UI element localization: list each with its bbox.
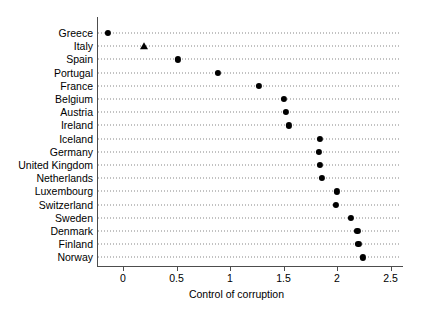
category-guide-line	[98, 164, 401, 165]
data-point-marker	[348, 215, 354, 221]
category-guide-line	[98, 178, 401, 179]
data-point-marker	[317, 162, 323, 168]
x-axis-tick-label: 1	[227, 272, 233, 285]
x-axis-tick-mark	[123, 267, 124, 271]
data-point-marker	[334, 188, 340, 194]
x-axis-tick-label: 2	[334, 272, 340, 285]
y-axis-tick-label: France	[60, 80, 93, 91]
category-row: Denmark	[97, 224, 403, 237]
data-point-marker	[333, 202, 339, 208]
data-point-marker	[286, 122, 292, 128]
category-guide-line	[98, 59, 401, 60]
x-axis-tick-label: 0	[120, 272, 126, 285]
category-row: Luxembourg	[97, 185, 403, 198]
y-axis-tick-label: Denmark	[50, 225, 93, 236]
x-axis-title: Control of corruption	[0, 288, 421, 300]
category-row: France	[97, 79, 403, 92]
data-point-marker	[354, 228, 360, 234]
y-axis-tick-label: Sweden	[55, 212, 93, 223]
y-axis-tick-label: Germany	[50, 146, 93, 157]
category-guide-line	[98, 217, 401, 218]
y-axis-tick-label: Greece	[59, 27, 93, 38]
category-row: Switzerland	[97, 198, 403, 211]
category-guide-line	[98, 85, 401, 86]
y-axis-tick-label: Norway	[57, 252, 93, 263]
y-axis-tick-label: Finland	[59, 239, 93, 250]
category-guide-line	[98, 151, 401, 152]
data-point-marker	[355, 241, 361, 247]
data-point-marker	[174, 56, 180, 62]
x-axis-spine	[97, 266, 403, 267]
category-guide-line	[98, 98, 401, 99]
category-row: Italy	[97, 40, 403, 53]
data-point-marker	[316, 149, 322, 155]
category-guide-line	[98, 257, 401, 258]
dot-plot-figure: GreeceItalySpainPortugalFranceBelgiumAus…	[0, 0, 421, 317]
y-axis-tick-label: United Kingdom	[18, 159, 93, 170]
y-axis-tick-label: Luxembourg	[35, 186, 93, 197]
category-row: Belgium	[97, 92, 403, 105]
data-point-marker	[280, 96, 286, 102]
category-guide-line	[98, 191, 401, 192]
category-guide-line	[98, 112, 401, 113]
y-axis-tick-label: Austria	[60, 107, 93, 118]
y-axis-tick-label: Belgium	[55, 93, 93, 104]
y-axis-tick-label: Portugal	[54, 67, 93, 78]
category-guide-line	[98, 72, 401, 73]
data-point-marker	[283, 109, 289, 115]
x-axis-tick-label: 2.5	[383, 272, 398, 285]
category-row: Austria	[97, 106, 403, 119]
x-axis-tick-mark	[337, 267, 338, 271]
x-axis-tick-label: 0.5	[169, 272, 184, 285]
y-axis-tick-label: Spain	[66, 54, 93, 65]
y-axis-tick-label: Switzerland	[39, 199, 93, 210]
category-guide-line	[98, 125, 401, 126]
data-point-marker	[105, 30, 111, 36]
data-point-marker	[317, 136, 323, 142]
category-row: Iceland	[97, 132, 403, 145]
y-axis-tick-label: Ireland	[61, 120, 93, 131]
category-row: Netherlands	[97, 172, 403, 185]
category-guide-line	[98, 138, 401, 139]
data-point-marker	[140, 42, 148, 49]
category-row: United Kingdom	[97, 158, 403, 171]
x-axis-tick-mark	[284, 267, 285, 271]
x-axis-tick-mark	[230, 267, 231, 271]
x-axis-title-text: Control of corruption	[189, 288, 284, 300]
category-row: Spain	[97, 53, 403, 66]
y-axis-tick-label: Netherlands	[36, 173, 93, 184]
data-point-marker	[319, 175, 325, 181]
category-guide-line	[98, 204, 401, 205]
category-row: Germany	[97, 145, 403, 158]
x-axis-tick-mark	[391, 267, 392, 271]
category-guide-line	[98, 32, 401, 33]
data-point-marker	[360, 254, 366, 260]
plot-area: GreeceItalySpainPortugalFranceBelgiumAus…	[97, 17, 403, 266]
x-axis-tick-mark	[177, 267, 178, 271]
y-axis-tick-label: Italy	[74, 41, 93, 52]
category-row: Finland	[97, 238, 403, 251]
x-axis-tick-label: 1.5	[276, 272, 291, 285]
data-point-marker	[215, 70, 221, 76]
category-row: Greece	[97, 26, 403, 39]
data-point-marker	[256, 83, 262, 89]
category-row: Portugal	[97, 66, 403, 79]
category-row: Sweden	[97, 211, 403, 224]
y-axis-tick-label: Iceland	[59, 133, 93, 144]
category-row: Ireland	[97, 119, 403, 132]
category-row: Norway	[97, 251, 403, 264]
